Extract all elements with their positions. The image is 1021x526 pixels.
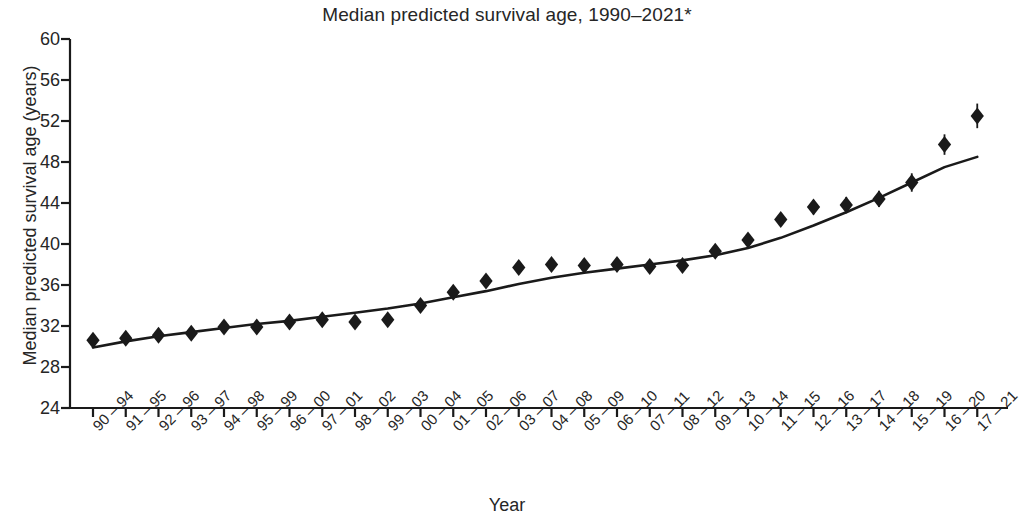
data-point-marker <box>872 190 885 207</box>
data-point-marker <box>250 319 263 336</box>
data-point-marker <box>316 311 329 328</box>
data-point-marker <box>119 330 132 347</box>
data-point-marker <box>348 313 361 330</box>
data-point-marker <box>545 256 558 273</box>
error-bar-group <box>93 104 977 346</box>
data-point-marker <box>971 107 984 124</box>
x-axis-label: Year <box>0 495 1014 516</box>
data-point-marker <box>643 258 656 275</box>
data-point-marker <box>479 272 492 289</box>
data-marker-group <box>86 107 984 348</box>
data-point-marker <box>185 325 198 342</box>
data-point-marker <box>807 199 820 216</box>
data-point-marker <box>152 327 165 344</box>
data-point-marker <box>217 319 230 336</box>
data-point-marker <box>381 311 394 328</box>
data-point-marker <box>774 211 787 228</box>
data-point-marker <box>414 297 427 314</box>
data-point-marker <box>283 313 296 330</box>
axes-group <box>61 39 1008 417</box>
data-point-marker <box>938 136 951 153</box>
data-point-marker <box>512 259 525 276</box>
trend-line <box>93 157 977 348</box>
data-point-marker <box>905 174 918 191</box>
